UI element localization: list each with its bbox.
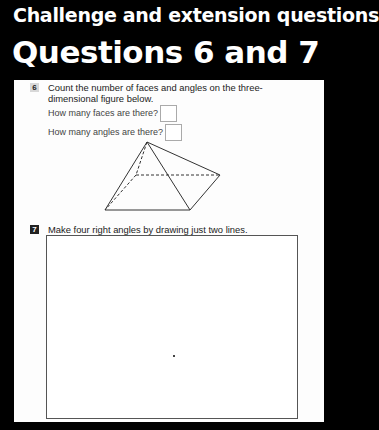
- center-dot: [173, 355, 175, 357]
- question-7-text: Make four right angles by drawing just t…: [48, 224, 248, 235]
- pyramid-figure: [14, 80, 324, 220]
- drawing-area[interactable]: [46, 235, 298, 419]
- question-7-number: 7: [30, 225, 39, 234]
- worksheet-panel: 6 Count the number of faces and angles o…: [14, 80, 324, 422]
- subtitle: Challenge and extension questions: [13, 4, 379, 26]
- page-title: Questions 6 and 7: [12, 34, 319, 70]
